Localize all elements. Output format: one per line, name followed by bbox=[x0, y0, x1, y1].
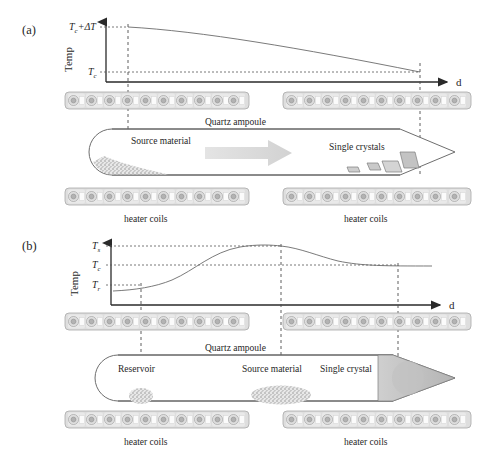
panel-a-ampoule: Source material Single crystals bbox=[89, 129, 455, 175]
panel-a-heater-right-label: heater coils bbox=[344, 214, 388, 224]
panel-a-lower-heater-right bbox=[283, 188, 471, 205]
panel-a-lower-heater-left bbox=[65, 188, 249, 205]
panel-b-upper-heater-right bbox=[283, 313, 471, 330]
panel-a-y-axis-label: Temp bbox=[62, 47, 74, 72]
panel-b-source-label: Source material bbox=[242, 364, 302, 374]
panel-b-reservoir-charge bbox=[129, 388, 153, 404]
panel-b-reservoir-label: Reservoir bbox=[118, 364, 156, 374]
panel-b-y-axis-label: Temp bbox=[68, 271, 80, 296]
panel-a-x-axis-label: d bbox=[456, 76, 462, 88]
panel-b-upper-heater-left bbox=[65, 313, 249, 330]
tick-suffix: +ΔT bbox=[78, 21, 98, 32]
panel-b-lower-heater-left bbox=[65, 411, 249, 428]
panel-a-upper-heater-left bbox=[65, 92, 249, 109]
panel-b-heater-left-label: heater coils bbox=[124, 437, 168, 447]
panel-b-label: (b) bbox=[22, 239, 37, 253]
diagram-svg: (a) Temp d Tc+ΔT Tc bbox=[0, 0, 487, 458]
panel-a-heater-left-label: heater coils bbox=[124, 214, 168, 224]
panel-b-ampoule: Reservoir Source material Single crystal bbox=[95, 355, 455, 405]
tick-sub: r bbox=[98, 285, 101, 293]
figure-container: (a) Temp d Tc+ΔT Tc bbox=[0, 0, 487, 458]
panel-b-heater-right-label: heater coils bbox=[344, 437, 388, 447]
panel-a-source-label: Source material bbox=[131, 136, 191, 146]
panel-a-label: (a) bbox=[22, 23, 36, 37]
panel-b-ampoule-label: Quartz ampoule bbox=[205, 343, 266, 353]
panel-b-lower-heater-right bbox=[283, 411, 471, 428]
panel-b-product-label: Single crystal bbox=[320, 364, 372, 374]
panel-b-x-axis-label: d bbox=[449, 299, 455, 311]
panel-b-source-material-powder bbox=[251, 386, 311, 405]
panel-a-product-label: Single crystals bbox=[329, 142, 385, 152]
tick-sub: s bbox=[98, 246, 101, 254]
panel-a-ampoule-label: Quartz ampoule bbox=[205, 117, 266, 127]
panel-a-upper-heater-right bbox=[283, 92, 471, 109]
